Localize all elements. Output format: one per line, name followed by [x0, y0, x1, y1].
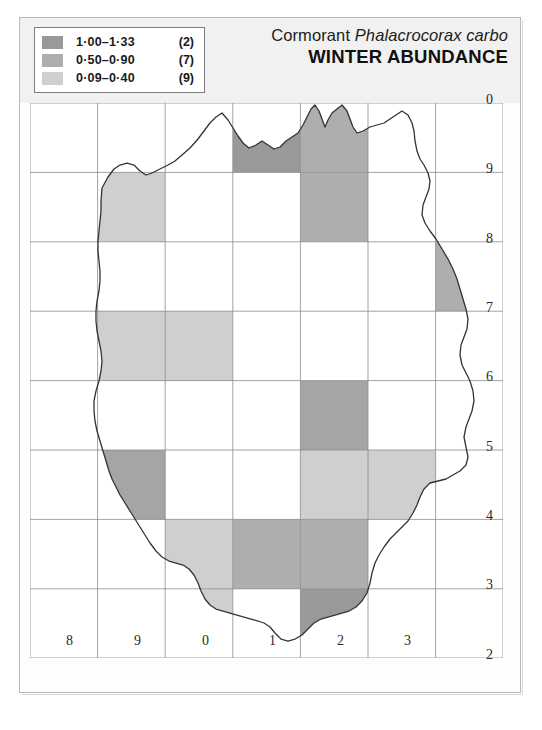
abundance-cell: [300, 450, 368, 519]
x-tick-9: 9: [134, 633, 141, 649]
legend-swatch-light: [42, 72, 63, 85]
abundance-cell: [233, 519, 301, 588]
legend-count: (7): [168, 53, 194, 67]
legend-swatch-dark: [42, 36, 63, 49]
abundance-cell: [98, 172, 166, 241]
y-tick-9: 9: [486, 161, 493, 177]
y-tick-6: 6: [486, 369, 493, 385]
abundance-cell: [300, 519, 368, 588]
y-tick-4: 4: [486, 508, 493, 524]
species-title: Cormorant Phalacrocorax carbo: [271, 27, 508, 44]
y-tick-3: 3: [486, 577, 493, 593]
y-tick-7: 7: [486, 300, 493, 316]
x-tick-1: 1: [269, 633, 276, 649]
scientific-name: Phalacrocorax carbo: [355, 26, 508, 44]
legend: 1·00–1·33 (2) 0·50–0·90 (7) 0·09–0·40 (9…: [34, 27, 205, 93]
map-svg: [30, 103, 503, 658]
abundance-cell: [300, 381, 368, 450]
map-page: Cormorant Phalacrocorax carbo WINTER ABU…: [0, 0, 542, 730]
legend-range: 1·00–1·33: [76, 35, 168, 49]
legend-item: 1·00–1·33 (2): [42, 33, 194, 51]
title-block: Cormorant Phalacrocorax carbo WINTER ABU…: [271, 27, 508, 66]
legend-item: 0·50–0·90 (7): [42, 51, 194, 69]
abundance-cell: [300, 172, 368, 241]
legend-range: 0·50–0·90: [76, 53, 168, 67]
common-name: Cormorant: [271, 26, 350, 44]
x-tick-8: 8: [66, 633, 73, 649]
legend-count: (2): [168, 35, 194, 49]
y-tick-5: 5: [486, 439, 493, 455]
y-tick-2: 2: [486, 647, 493, 663]
legend-swatch-medium: [42, 54, 63, 67]
abundance-cell: [165, 311, 233, 380]
distribution-map: 0 9 8 7 6 5 4 3 2 8 9 0 1 2 3: [30, 103, 503, 658]
map-subtitle: WINTER ABUNDANCE: [271, 47, 508, 66]
header-band: Cormorant Phalacrocorax carbo WINTER ABU…: [20, 18, 520, 103]
x-tick-2: 2: [337, 633, 344, 649]
x-tick-3: 3: [404, 633, 411, 649]
legend-item: 0·09–0·40 (9): [42, 69, 194, 87]
x-tick-0: 0: [202, 633, 209, 649]
legend-count: (9): [168, 71, 194, 85]
y-tick-0: 0: [486, 92, 493, 108]
abundance-cell: [98, 311, 166, 380]
y-tick-8: 8: [486, 231, 493, 247]
legend-range: 0·09–0·40: [76, 71, 168, 85]
